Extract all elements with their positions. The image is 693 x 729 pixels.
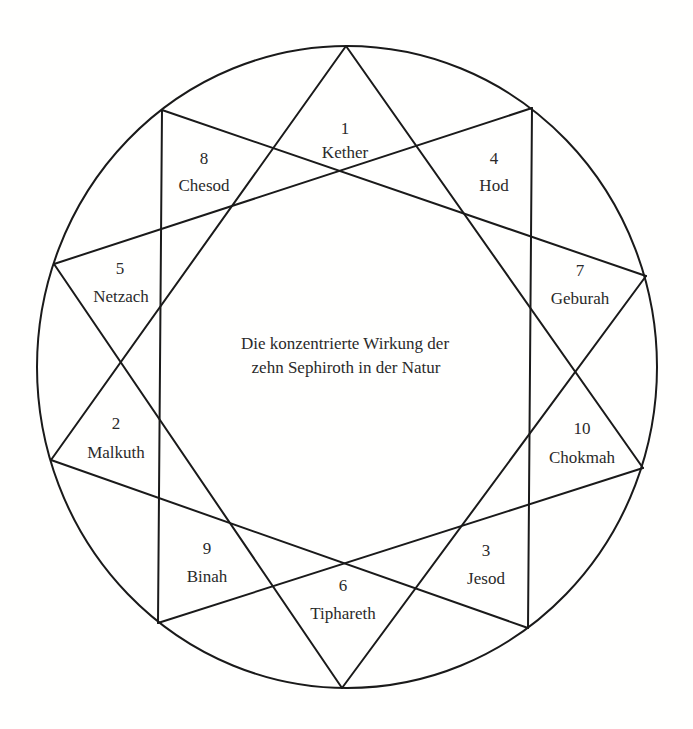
sephira-netzach: 5 Netzach bbox=[93, 259, 149, 306]
line-right-lower-to-bottom-left bbox=[158, 468, 643, 623]
sephira-number: 8 bbox=[200, 149, 209, 168]
line-left-lower-to-bottom-right bbox=[51, 460, 528, 628]
sephira-chesod: 8 Chesod bbox=[179, 149, 231, 195]
sephira-jesod: 3 Jesod bbox=[467, 541, 505, 588]
sephira-name: Netzach bbox=[93, 287, 149, 306]
sephira-number: 9 bbox=[203, 539, 212, 558]
sephira-name: Tiphareth bbox=[310, 604, 376, 623]
sephira-name: Jesod bbox=[467, 569, 505, 588]
sephira-name: Chokmah bbox=[549, 448, 616, 467]
sephira-malkuth: 2 Malkuth bbox=[87, 414, 145, 462]
line-top-to-left-lower bbox=[51, 46, 346, 460]
sephira-hod: 4 Hod bbox=[479, 149, 509, 195]
line-top-to-right-lower bbox=[346, 46, 643, 468]
sephira-name: Malkuth bbox=[87, 443, 145, 462]
sephira-name: Kether bbox=[322, 143, 369, 162]
caption-line-1: Die konzentrierte Wirkung der bbox=[241, 334, 449, 353]
sephira-number: 10 bbox=[574, 419, 591, 438]
line-upper-right-to-left-upper bbox=[54, 108, 532, 264]
line-right-vertical bbox=[528, 108, 532, 628]
sephira-geburah: 7 Geburah bbox=[551, 261, 610, 308]
sephira-number: 3 bbox=[482, 541, 491, 560]
sephira-number: 6 bbox=[339, 576, 348, 595]
sephira-tiphareth: 6 Tiphareth bbox=[310, 576, 376, 623]
sephira-name: Chesod bbox=[179, 176, 231, 195]
diagram-canvas: 1 Kether 8 Chesod 4 Hod 5 Netzach 7 Gebu… bbox=[0, 0, 693, 729]
caption-line-2: zehn Sephiroth in der Natur bbox=[252, 358, 441, 377]
sephira-number: 1 bbox=[341, 119, 350, 138]
sephira-name: Hod bbox=[479, 176, 509, 195]
sephira-number: 2 bbox=[112, 414, 121, 433]
sephira-number: 7 bbox=[576, 261, 585, 280]
sephira-name: Geburah bbox=[551, 289, 610, 308]
line-left-vertical bbox=[158, 110, 162, 623]
center-caption: Die konzentrierte Wirkung der zehn Sephi… bbox=[241, 334, 449, 377]
line-upper-left-to-right-upper bbox=[162, 110, 646, 276]
sephira-kether: 1 Kether bbox=[322, 119, 369, 162]
sephira-number: 4 bbox=[490, 149, 499, 168]
sephiroth-diagram: 1 Kether 8 Chesod 4 Hod 5 Netzach 7 Gebu… bbox=[0, 0, 693, 729]
sephira-chokmah: 10 Chokmah bbox=[549, 419, 616, 467]
sephira-name: Binah bbox=[187, 567, 228, 586]
sephira-binah: 9 Binah bbox=[187, 539, 228, 586]
sephira-number: 5 bbox=[116, 259, 125, 278]
